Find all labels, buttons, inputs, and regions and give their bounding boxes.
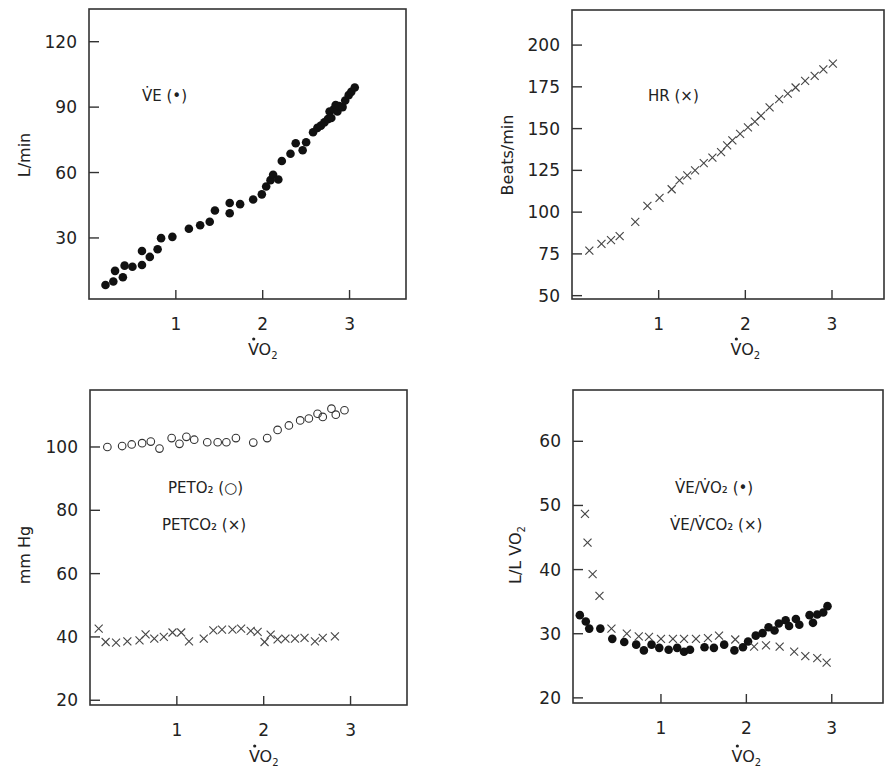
cross-marker <box>254 628 262 636</box>
cross-marker <box>801 652 809 660</box>
legend-entry: PETCO₂ (×) <box>162 516 246 534</box>
cross-marker <box>102 638 110 646</box>
circle-marker <box>285 422 293 430</box>
cross-marker <box>669 635 677 643</box>
circle-marker <box>249 439 257 447</box>
dot-marker <box>286 149 295 158</box>
cross-marker <box>829 60 837 68</box>
y-tick-label: 50 <box>539 495 561 515</box>
cross-marker <box>177 629 185 637</box>
x-tick-label: 2 <box>740 314 751 334</box>
dot-marker <box>258 190 267 199</box>
y-tick-label: 30 <box>55 228 77 248</box>
y-tick-label: 60 <box>539 431 561 451</box>
cross-marker <box>731 636 739 644</box>
dot-marker <box>744 637 753 646</box>
cross-marker <box>160 633 168 641</box>
cross-marker <box>274 635 282 643</box>
dot-marker <box>700 643 709 652</box>
cross-marker <box>331 632 339 640</box>
cross-marker <box>597 240 605 248</box>
y-tick-label: 175 <box>528 77 560 97</box>
dot-marker <box>620 638 629 647</box>
cross-marker <box>142 630 150 638</box>
dot-marker <box>120 261 129 270</box>
dot-marker <box>585 624 594 633</box>
cross-marker <box>623 630 631 638</box>
series-cross <box>95 625 339 647</box>
y-axis-label: mm Hg <box>15 526 34 584</box>
y-tick-label: 40 <box>56 627 78 647</box>
cross-marker <box>801 77 809 85</box>
x-tick-label: 1 <box>656 718 667 738</box>
cross-marker <box>680 635 688 643</box>
cross-marker <box>584 539 592 547</box>
panel-ve: 306090120123VO2L/minV̇E (•) <box>15 9 406 361</box>
plot-frame <box>89 9 406 299</box>
cross-marker <box>784 90 792 98</box>
dot-marker <box>185 224 194 233</box>
cross-marker <box>169 629 177 637</box>
cross-marker <box>775 95 783 103</box>
x-tick-label: 2 <box>741 718 752 738</box>
cross-marker <box>291 635 299 643</box>
cross-marker <box>200 635 208 643</box>
dot-marker <box>576 611 585 620</box>
cross-marker <box>776 643 784 651</box>
y-tick-label: 60 <box>56 564 78 584</box>
circle-marker <box>203 438 211 446</box>
dot-marker <box>157 234 166 243</box>
dot-accent-icon <box>253 744 256 747</box>
legend-entry: PETO₂ (○) <box>168 479 243 497</box>
dot-marker <box>720 640 729 649</box>
dot-accent-icon <box>735 337 738 340</box>
y-tick-label: 90 <box>55 97 77 117</box>
panel-pet: 20406080100123VO2mm HgPETO₂ (○)PETCO₂ (×… <box>15 390 407 768</box>
circle-marker <box>190 436 198 444</box>
cross-marker <box>319 634 327 642</box>
x-tick-label: 1 <box>170 314 181 334</box>
dot-marker <box>298 146 307 155</box>
cross-marker <box>218 626 226 634</box>
cross-marker <box>736 130 744 138</box>
cross-marker <box>631 218 639 226</box>
y-tick-label: 100 <box>528 202 560 222</box>
plot-frame <box>572 10 884 299</box>
circle-marker <box>223 438 231 446</box>
x-tick-label: 1 <box>171 720 182 740</box>
cross-marker <box>819 65 827 73</box>
dot-marker <box>211 206 220 215</box>
dot-marker <box>596 624 605 633</box>
dot-marker <box>111 267 120 276</box>
dot-marker <box>196 221 205 230</box>
dot-marker <box>101 281 110 290</box>
y-axis-label: L/min <box>15 133 34 177</box>
dot-marker <box>225 199 234 208</box>
circle-marker <box>332 411 340 419</box>
dot-marker <box>291 139 300 148</box>
legend-entry: V̇E/V̇O₂ (•) <box>675 478 753 497</box>
dot-marker <box>823 602 832 611</box>
cross-marker <box>692 635 700 643</box>
y-tick-label: 80 <box>56 500 78 520</box>
dot-marker <box>327 114 336 123</box>
x-tick-label: 3 <box>826 718 837 738</box>
cross-marker <box>675 176 683 184</box>
cross-marker <box>261 638 269 646</box>
cross-marker <box>792 84 800 92</box>
dot-marker <box>225 209 234 218</box>
cross-marker <box>700 159 708 167</box>
cross-marker <box>691 166 699 174</box>
cross-marker <box>643 202 651 210</box>
cross-marker <box>645 633 653 641</box>
circle-marker <box>168 434 176 442</box>
circle-marker <box>214 438 222 446</box>
cross-marker <box>813 654 821 662</box>
dot-accent-icon <box>736 744 739 747</box>
y-tick-label: 150 <box>528 119 560 139</box>
y-tick-label: 20 <box>539 688 561 708</box>
dot-marker <box>785 622 794 631</box>
dot-marker <box>205 218 214 227</box>
panel-ratio: 2030405060123VO2L/L VO2V̇E/V̇O₂ (•)V̇E/V… <box>506 390 883 768</box>
cross-marker <box>744 123 752 131</box>
